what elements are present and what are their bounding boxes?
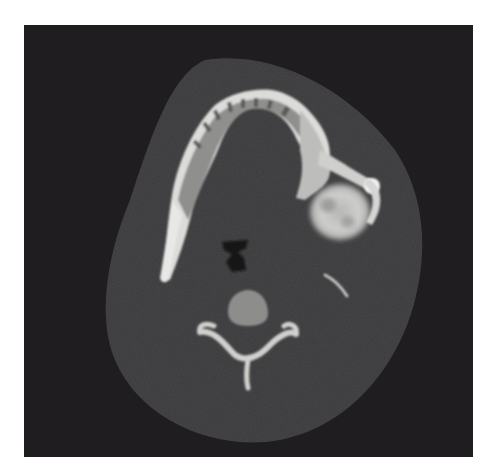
ct-scan-image [0, 0, 495, 473]
soft-tissue-outline [106, 58, 423, 442]
